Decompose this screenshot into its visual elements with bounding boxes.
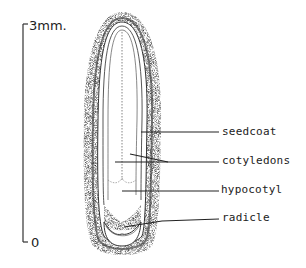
scale-bar	[23, 24, 28, 242]
embryo	[98, 22, 147, 246]
label-hypocotyl: hypocotyl	[221, 184, 282, 195]
scale-top-label: 3mm.	[29, 19, 67, 32]
label-radicle: radicle	[222, 212, 270, 223]
label-seedcoat: seedcoat	[222, 126, 277, 137]
seed-diagram: 3mm. 0 seedcoat cotyledons hypocotyl rad…	[0, 0, 306, 268]
label-cotyledons: cotyledons	[222, 155, 290, 166]
scale-bottom-label: 0	[31, 236, 39, 249]
